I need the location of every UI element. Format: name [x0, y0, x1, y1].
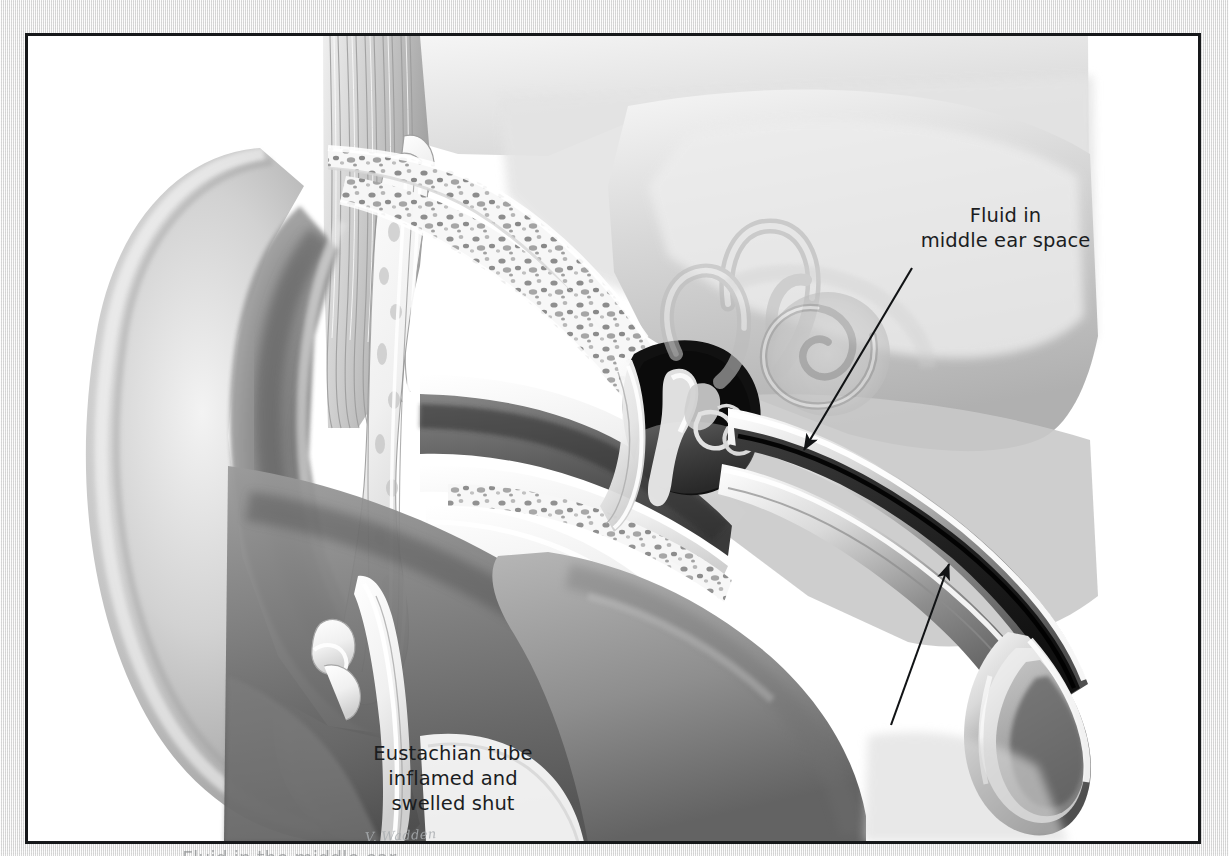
annotation-eustachian-tube-inflamed: Eustachian tube inflamed and swelled shu…: [333, 741, 573, 816]
figure-frame: Fluid in middle ear space Eustachian tub…: [25, 33, 1201, 844]
figure-caption: Fluid in the middle ear: [182, 845, 702, 856]
annotation-fluid-in-middle-ear-space: Fluid in middle ear space: [893, 203, 1118, 253]
artist-signature: V. Wadden: [365, 826, 437, 844]
ear-anatomy-illustration: [28, 36, 1198, 841]
